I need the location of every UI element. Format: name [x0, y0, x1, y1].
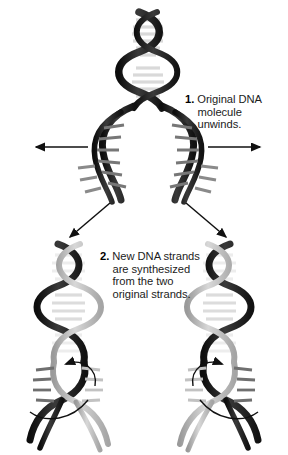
- step-1-number: 1.: [185, 93, 194, 105]
- step-2-line-2: are synthesized: [100, 263, 208, 276]
- dna-replication-figure: by the body's cells as they are needed.: [0, 0, 288, 455]
- step-1-line-1: Original DNA: [197, 93, 262, 105]
- dna-illustration: [0, 0, 288, 455]
- step-2-number: 2.: [100, 250, 109, 262]
- step-2-line-1: New DNA strands: [112, 250, 200, 262]
- callout-step-1: 1. Original DNA molecule unwinds.: [185, 93, 285, 131]
- step-1-line-2: molecule unwinds.: [185, 106, 285, 131]
- step-2-line-4: original strands.: [100, 288, 208, 301]
- callout-step-2: 2. New DNA strands are synthesized from …: [100, 250, 208, 300]
- step-2-line-3: from the two: [100, 275, 208, 288]
